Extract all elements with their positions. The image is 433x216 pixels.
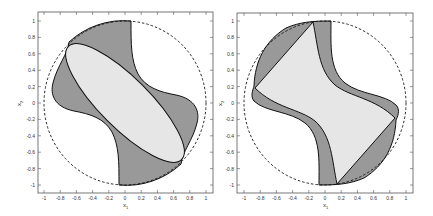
svg-text:0.6: 0.6 [227,51,234,57]
svg-text:0.8: 0.8 [28,34,35,40]
svg-text:-1: -1 [242,195,247,201]
svg-text:1: 1 [205,195,208,201]
svg-text:0.2: 0.2 [138,195,145,201]
svg-text:0.8: 0.8 [386,195,393,201]
svg-text:0: 0 [231,100,234,106]
svg-text:0.4: 0.4 [227,67,234,73]
svg-text:-0.6: -0.6 [72,195,81,201]
svg-text:1: 1 [231,18,234,24]
svg-text:1: 1 [32,18,35,24]
svg-text:-1: -1 [42,195,47,201]
svg-text:-0.8: -0.8 [26,166,35,172]
right-y-axis-label: x2 [217,100,225,106]
svg-text:-0.6: -0.6 [272,195,281,201]
right-y-tick-labels: 1 0.8 0.6 0.4 0.2 0 -0.2 -0.4 -0.6 -0.8 … [225,18,234,188]
svg-text:0.8: 0.8 [186,195,193,201]
figure: -1 -0.8 -0.6 -0.4 -0.2 0 0.2 0.4 0.6 0.8… [0,0,433,216]
right-plot: -1 -0.8 -0.6 -0.4 -0.2 0 0.2 0.4 0.6 0.8… [217,13,413,210]
svg-text:-0.8: -0.8 [225,166,234,172]
left-y-tick-labels: 1 0.8 0.6 0.4 0.2 0 -0.2 -0.4 -0.6 -0.8 … [26,18,35,188]
svg-text:-0.4: -0.4 [88,195,97,201]
svg-text:-0.2: -0.2 [225,116,234,122]
svg-text:0.6: 0.6 [370,195,377,201]
svg-text:0.6: 0.6 [28,51,35,57]
svg-text:0: 0 [324,195,327,201]
svg-text:-0.6: -0.6 [26,149,35,155]
left-x-axis-label: x1 [123,202,129,210]
svg-text:-0.6: -0.6 [225,149,234,155]
svg-text:-1: -1 [31,182,36,188]
svg-text:0: 0 [124,195,127,201]
svg-text:0.2: 0.2 [28,84,35,90]
svg-text:0.4: 0.4 [154,195,161,201]
svg-text:-0.2: -0.2 [104,195,113,201]
svg-text:-0.4: -0.4 [225,133,234,139]
left-x-tick-labels: -1 -0.8 -0.6 -0.4 -0.2 0 0.2 0.4 0.6 0.8… [42,195,208,201]
svg-text:0.8: 0.8 [227,34,234,40]
right-x-tick-labels: -1 -0.8 -0.6 -0.4 -0.2 0 0.2 0.4 0.6 0.8… [242,195,408,201]
svg-text:0: 0 [32,100,35,106]
svg-text:0.4: 0.4 [354,195,361,201]
left-plot: -1 -0.8 -0.6 -0.4 -0.2 0 0.2 0.4 0.6 0.8… [16,12,213,210]
svg-text:-0.8: -0.8 [256,195,265,201]
svg-text:-0.4: -0.4 [26,133,35,139]
svg-text:-0.8: -0.8 [56,195,65,201]
svg-text:0.6: 0.6 [170,195,177,201]
svg-text:1: 1 [405,195,408,201]
right-x-axis-label: x1 [323,202,329,210]
svg-text:-1: -1 [230,182,235,188]
left-y-axis-label: x2 [16,100,24,106]
svg-text:-0.2: -0.2 [304,195,313,201]
svg-text:-0.2: -0.2 [26,116,35,122]
svg-text:0.2: 0.2 [338,195,345,201]
svg-text:0.2: 0.2 [227,84,234,90]
svg-text:0.4: 0.4 [28,67,35,73]
svg-text:-0.4: -0.4 [288,195,297,201]
